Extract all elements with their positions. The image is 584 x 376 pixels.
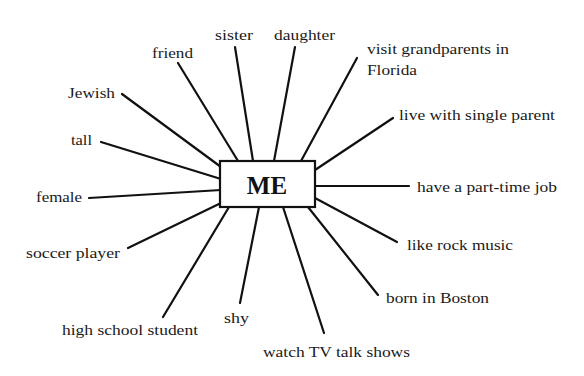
label-daughter: daughter xyxy=(274,26,336,43)
label-jewish: Jewish xyxy=(68,84,115,101)
line-daughter xyxy=(274,47,295,161)
label-visit-line1: visit grandparents in xyxy=(367,40,509,57)
label-tall: tall xyxy=(71,131,92,148)
center-node: ME xyxy=(220,161,315,207)
line-sister xyxy=(235,47,253,161)
label-highschool: high school student xyxy=(62,321,199,338)
line-jewish xyxy=(122,94,221,167)
line-visit xyxy=(301,58,357,161)
label-live: live with single parent xyxy=(399,106,556,123)
label-boston: born in Boston xyxy=(386,289,489,306)
label-shy: shy xyxy=(224,309,249,326)
line-soccer xyxy=(128,203,221,248)
label-female: female xyxy=(36,188,82,205)
center-label: ME xyxy=(247,172,287,199)
label-soccer: soccer player xyxy=(26,244,121,261)
line-highschool xyxy=(163,207,229,317)
line-live xyxy=(315,118,393,170)
line-friend xyxy=(178,63,238,161)
line-rock xyxy=(315,198,397,242)
line-tall xyxy=(101,142,221,179)
line-female xyxy=(89,190,221,198)
line-boston xyxy=(308,207,378,295)
mind-map-diagram: ME sister daughter friend visit grandpar… xyxy=(0,0,584,376)
label-sister: sister xyxy=(215,26,254,43)
label-rock: like rock music xyxy=(407,236,513,253)
label-tv: watch TV talk shows xyxy=(263,343,410,360)
line-shy xyxy=(240,207,259,303)
label-job: have a part-time job xyxy=(417,178,557,195)
label-visit-line2: Florida xyxy=(367,61,417,78)
line-tv xyxy=(283,207,324,333)
label-friend: friend xyxy=(152,44,193,61)
